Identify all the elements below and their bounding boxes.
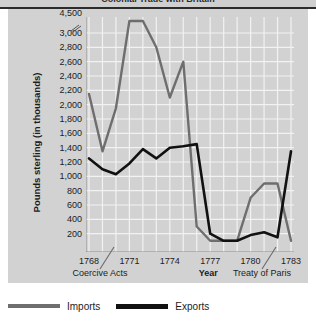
annotations-row: Coercive ActsYearTreaty of Paris [8,268,308,282]
chart-legend: Imports Exports [8,296,308,316]
y-tick-label: 2,400 [28,71,82,81]
y-axis-ticks: 4,5003,0002,8002,6002,4002,2002,0001,800… [28,9,82,283]
legend-label-exports: Exports [175,301,209,312]
line-swatch-icon [116,304,168,309]
y-tick-label: 2,600 [28,57,82,67]
y-tick-label: 4,500 [28,8,82,18]
chart-figure: Colonial Trade with Britain Pounds sterl… [0,0,316,333]
x-axis-title: Year [199,268,218,278]
figure-title-strip: Colonial Trade with Britain [0,0,316,7]
y-tick-label: 200 [28,229,82,239]
series-lines [86,17,294,252]
x-tick-label: 1780 [241,256,261,266]
y-tick-label: 1,400 [28,143,82,153]
y-tick-label: 2,200 [28,85,82,95]
y-tick-label: 1,600 [28,128,82,138]
y-tick-label: 2,800 [28,42,82,52]
x-tick-label: 1768 [79,256,99,266]
y-tick-label: 800 [28,186,82,196]
y-tick-label: 3,000 [28,28,82,38]
y-tick-label: 2,000 [28,100,82,110]
annotation-coercive-acts: Coercive Acts [72,268,127,278]
y-tick-label: 400 [28,214,82,224]
line-swatch-icon [8,304,60,308]
annotation-treaty-of-paris: Treaty of Paris [233,268,291,278]
figure-title: Colonial Trade with Britain [0,0,316,4]
x-tick-label: 1771 [119,256,139,266]
y-tick-label: 1,200 [28,157,82,167]
legend-item-exports[interactable]: Exports [116,301,209,312]
x-tick-label: 1783 [281,256,301,266]
legend-label-imports: Imports [67,301,100,312]
x-tick-label: 1777 [200,256,220,266]
x-tick-label: 1774 [160,256,180,266]
legend-item-imports[interactable]: Imports [8,301,100,312]
plot-area [86,17,294,252]
y-tick-label: 1,800 [28,114,82,124]
y-tick-label: 1,000 [28,171,82,181]
y-tick-label: 600 [28,200,82,210]
plot-panel: Pounds sterling (in thousands) 4,5003,00… [8,9,308,283]
